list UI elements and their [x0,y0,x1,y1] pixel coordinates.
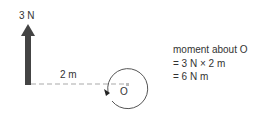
explanation-line-2: = 3 N × 2 m [173,58,225,69]
explanation-line-1: moment about O [173,44,247,55]
distance-label: 2 m [60,69,77,80]
explanation-line-3: = 6 N m [173,71,208,82]
force-label: 3 N [19,10,35,21]
rotation-arrowhead-icon [104,89,110,96]
force-arrow [21,24,35,85]
pivot-label: O [120,86,128,97]
